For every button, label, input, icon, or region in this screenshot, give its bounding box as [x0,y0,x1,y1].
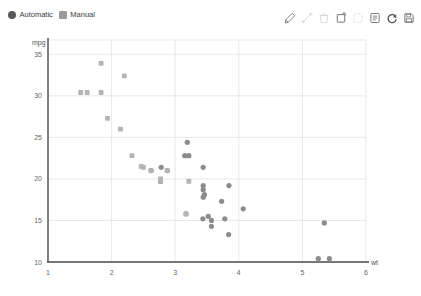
chart-legend: Automatic Manual [8,11,95,19]
y-tick-label: 25 [34,134,42,141]
save-disk-icon[interactable] [403,12,415,24]
data-point-circle[interactable] [206,214,211,219]
data-point-circle[interactable] [241,206,246,211]
data-point-circle[interactable] [219,199,224,204]
data-point-circle[interactable] [322,220,327,225]
x-tick-label: 2 [110,269,114,276]
data-point-square[interactable] [105,116,110,121]
x-tick-label: 1 [46,269,50,276]
y-tick-label: 35 [34,51,42,58]
edit-pencil-icon[interactable] [284,12,296,24]
legend-label-manual: Manual [70,11,95,19]
select-box-icon[interactable] [352,12,364,24]
y-axis-title: mpg [32,39,46,47]
list-view-icon[interactable] [369,12,381,24]
x-tick-label: 3 [173,269,177,276]
data-point-circle[interactable] [159,165,164,170]
x-tick-label: 4 [237,269,241,276]
chart-application: Automatic Manual [0,0,421,296]
line-tool-icon[interactable] [301,12,313,24]
data-point-square[interactable] [118,127,123,132]
data-point-square[interactable] [99,90,104,95]
legend-label-automatic: Automatic [20,11,53,19]
legend-item-manual[interactable]: Manual [59,11,95,19]
scatter-plot-svg[interactable]: 101520253035123456 mpg wt [0,34,421,296]
y-tick-label: 15 [34,217,42,224]
data-point-square[interactable] [186,179,191,184]
data-point-circle[interactable] [316,256,321,261]
y-tick-label: 10 [34,259,42,266]
data-point-square[interactable] [99,61,104,66]
data-point-circle[interactable] [182,153,187,158]
legend-square-marker-icon [59,11,67,19]
data-point-square[interactable] [184,211,189,216]
data-point-circle[interactable] [200,216,205,221]
crop-frame-icon[interactable] [335,12,347,24]
x-axis-title: wt [370,259,378,266]
data-point-square[interactable] [158,177,163,182]
chart-toolbar-bar: Automatic Manual [0,0,421,34]
data-point-circle[interactable] [201,183,206,188]
legend-circle-marker-icon [8,11,16,19]
data-point-square[interactable] [141,165,146,170]
data-point-circle[interactable] [226,232,231,237]
data-point-circle[interactable] [226,183,231,188]
refresh-icon[interactable] [386,12,398,24]
y-tick-label: 20 [34,175,42,182]
legend-item-automatic[interactable]: Automatic [8,11,53,19]
y-tick-label: 30 [34,92,42,99]
tool-icon-group [284,12,415,24]
data-point-circle[interactable] [201,165,206,170]
trash-icon[interactable] [318,12,330,24]
scatter-plot-panel[interactable]: 101520253035123456 mpg wt [0,34,421,296]
data-point-circle[interactable] [327,256,332,261]
data-point-circle[interactable] [201,195,206,200]
data-point-square[interactable] [122,74,127,79]
x-tick-label: 5 [300,269,304,276]
data-point-circle[interactable] [185,140,190,145]
plot-background [0,34,421,296]
data-point-square[interactable] [130,153,135,158]
data-point-square[interactable] [165,168,170,173]
data-point-square[interactable] [85,90,90,95]
x-tick-label: 6 [364,269,368,276]
data-point-square[interactable] [78,90,83,95]
data-point-circle[interactable] [209,224,214,229]
data-point-circle[interactable] [209,218,214,223]
data-point-circle[interactable] [222,216,227,221]
data-point-square[interactable] [149,168,154,173]
